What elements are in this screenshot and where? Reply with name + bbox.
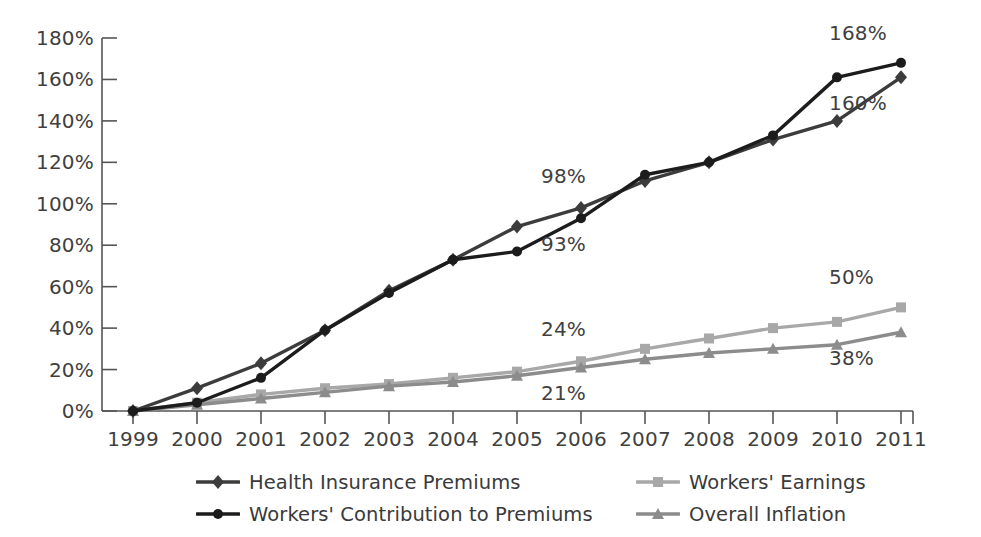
legend-label: Overall Inflation <box>689 503 846 526</box>
series-health-insurance-premiums <box>127 70 907 418</box>
legend-marker-square-icon <box>636 473 680 491</box>
data-point-marker-square <box>832 317 842 327</box>
data-label: 38% <box>829 346 874 370</box>
legend-marker-diamond-icon <box>196 473 240 491</box>
y-tick-label: 160% <box>0 67 94 91</box>
legend-marker-circle-icon <box>196 505 240 523</box>
data-point-marker-circle <box>832 72 842 82</box>
data-label: 50% <box>829 265 874 289</box>
legend-item[interactable]: Workers' Earnings <box>636 466 936 498</box>
x-tick-label: 2009 <box>747 427 799 451</box>
data-point-marker-square <box>640 344 650 354</box>
data-point-marker-circle <box>213 509 223 519</box>
data-point-marker-circle <box>128 406 138 416</box>
x-tick-label: 2006 <box>555 427 607 451</box>
chart-legend: Health Insurance PremiumsWorkers' Earnin… <box>196 466 936 530</box>
data-point-marker-circle <box>256 373 266 383</box>
data-label: 21% <box>541 381 586 405</box>
x-tick-label: 2010 <box>811 427 863 451</box>
x-tick-label: 2005 <box>491 427 543 451</box>
data-point-marker-square <box>896 302 906 312</box>
data-point-marker-circle <box>512 246 522 256</box>
data-label: 168% <box>829 21 887 45</box>
data-label: 93% <box>541 232 586 256</box>
legend-label: Workers' Contribution to Premiums <box>249 503 593 526</box>
y-tick-label: 80% <box>0 233 94 257</box>
x-tick-label: 2007 <box>619 427 671 451</box>
data-point-marker-diamond <box>511 220 523 234</box>
legend-label: Workers' Earnings <box>689 471 866 494</box>
data-point-marker-square <box>768 323 778 333</box>
x-tick-label: 2000 <box>171 427 223 451</box>
y-tick-label: 60% <box>0 275 94 299</box>
data-label: 24% <box>541 317 586 341</box>
data-point-marker-square <box>653 477 663 487</box>
data-point-marker-diamond <box>212 475 224 489</box>
data-point-marker-diamond <box>191 381 203 395</box>
series-workers-contribution-to-premiums <box>128 58 906 416</box>
legend-label: Health Insurance Premiums <box>249 471 521 494</box>
x-tick-label: 2011 <box>875 427 927 451</box>
data-label: 98% <box>541 164 586 188</box>
y-tick-label: 120% <box>0 150 94 174</box>
data-point-marker-circle <box>896 58 906 68</box>
y-tick-label: 180% <box>0 26 94 50</box>
data-point-marker-circle <box>448 255 458 265</box>
data-point-marker-circle <box>192 398 202 408</box>
y-tick-label: 40% <box>0 316 94 340</box>
x-tick-label: 1999 <box>107 427 159 451</box>
data-point-marker-square <box>704 333 714 343</box>
legend-item[interactable]: Overall Inflation <box>636 498 936 530</box>
legend-item[interactable]: Workers' Contribution to Premiums <box>196 498 636 530</box>
data-point-marker-diamond <box>575 201 587 215</box>
data-point-marker-circle <box>640 170 650 180</box>
y-tick-label: 0% <box>0 399 94 423</box>
data-point-marker-circle <box>384 288 394 298</box>
x-tick-label: 2001 <box>235 427 287 451</box>
y-tick-label: 20% <box>0 358 94 382</box>
data-point-marker-circle <box>704 157 714 167</box>
x-tick-label: 2004 <box>427 427 479 451</box>
data-point-marker-diamond <box>255 356 267 370</box>
y-tick-label: 140% <box>0 109 94 133</box>
y-tick-label: 100% <box>0 192 94 216</box>
x-tick-label: 2008 <box>683 427 735 451</box>
data-point-marker-circle <box>320 325 330 335</box>
x-tick-label: 2003 <box>363 427 415 451</box>
data-point-marker-circle <box>768 130 778 140</box>
data-label: 160% <box>829 91 887 115</box>
legend-item[interactable]: Health Insurance Premiums <box>196 466 636 498</box>
x-tick-label: 2002 <box>299 427 351 451</box>
legend-marker-triangle-icon <box>636 505 680 523</box>
data-point-marker-circle <box>576 213 586 223</box>
line-chart: 0%20%40%60%80%100%120%140%160%180% 19992… <box>0 0 981 537</box>
